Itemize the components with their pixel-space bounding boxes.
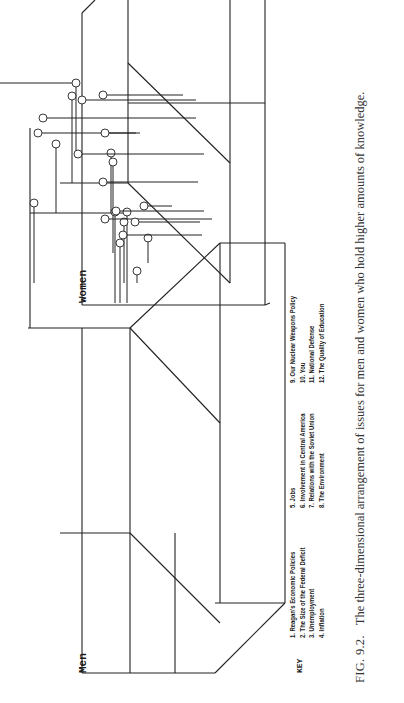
men-panel-label: Men xyxy=(77,653,89,673)
rotated-page-content: Men Women KEY 1. Reagan's Economic Polic… xyxy=(0,0,404,703)
key-column-3: 9. Our Nuclear Weapons Policy 10. You 11… xyxy=(288,296,326,383)
key-column-1: 1. Reagan's Economic Policies 2. The Siz… xyxy=(288,548,326,638)
key-item: 3. Unemployment xyxy=(307,548,317,638)
key-item: 2. The Size of the Federal Deficit xyxy=(298,548,308,638)
key-item: 5. Jobs xyxy=(288,413,298,508)
key-item: 12. The Quality of Education xyxy=(317,296,327,383)
key-item: 4. Inflation xyxy=(317,548,327,638)
key-item: 6. Involvement in Central America xyxy=(298,413,308,508)
figure-page: Men Women KEY 1. Reagan's Economic Polic… xyxy=(0,0,404,703)
key-item: 1. Reagan's Economic Policies xyxy=(288,548,298,638)
figure-caption-text: The three-dimensional arrangement of iss… xyxy=(353,92,367,626)
key-title: KEY xyxy=(295,659,304,673)
figure-number: FIG. 9.2. xyxy=(353,635,367,683)
women-3d-plot xyxy=(0,0,404,703)
key-item: 9. Our Nuclear Weapons Policy xyxy=(288,296,298,383)
women-panel-label: Women xyxy=(77,270,89,303)
key-item: 11. National Defense xyxy=(307,296,317,383)
key-item: 10. You xyxy=(298,296,308,383)
figure-caption: FIG. 9.2.The three-dimensional arrangeme… xyxy=(352,23,368,683)
key-column-2: 5. Jobs 6. Involvement in Central Americ… xyxy=(288,413,326,508)
key-item: 7. Relations with the Soviet Union xyxy=(307,413,317,508)
key-item: 8. The Environment xyxy=(317,413,327,508)
